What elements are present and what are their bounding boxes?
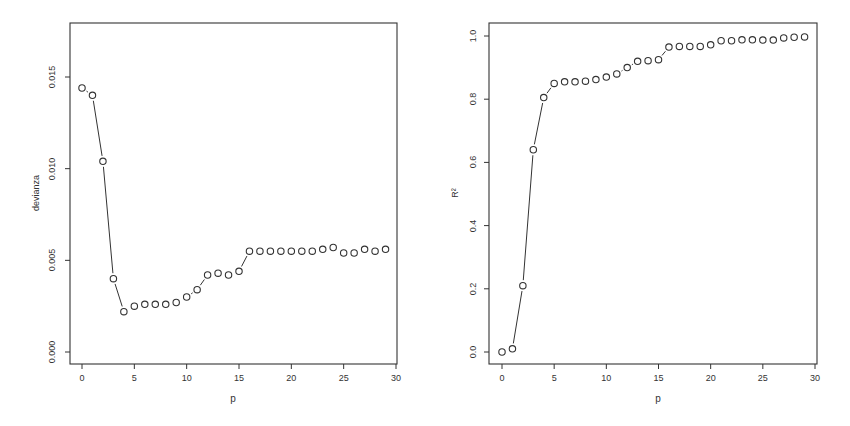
data-point xyxy=(131,303,137,309)
data-point xyxy=(246,248,252,254)
data-point xyxy=(320,246,326,252)
data-point xyxy=(194,286,200,292)
data-point xyxy=(499,349,505,355)
data-point xyxy=(770,37,776,43)
data-point xyxy=(278,248,284,254)
data-point xyxy=(530,147,536,153)
data-point xyxy=(173,299,179,305)
x-tick-label: 30 xyxy=(391,373,401,383)
data-point xyxy=(624,64,630,70)
data-point xyxy=(582,78,588,84)
data-point xyxy=(288,248,294,254)
data-point xyxy=(100,158,106,164)
data-point xyxy=(509,346,515,352)
data-point xyxy=(183,294,189,300)
data-point xyxy=(634,58,640,64)
x-tick-label: 20 xyxy=(706,373,716,383)
x-tick-label: 0 xyxy=(79,373,84,383)
data-point xyxy=(372,248,378,254)
data-point xyxy=(707,42,713,48)
data-point xyxy=(299,248,305,254)
series-segment xyxy=(621,70,622,71)
y-tick-label: 1.0 xyxy=(468,30,478,43)
deviance-chart-panel: devianza p 0510152025300.0000.0050.0100.… xyxy=(0,0,425,426)
data-point xyxy=(781,35,787,41)
y-tick-label: 0.6 xyxy=(468,156,478,169)
x-axis-label-p: p xyxy=(230,393,236,404)
deviance-plot xyxy=(0,0,425,426)
data-point xyxy=(551,80,557,86)
data-point xyxy=(236,268,242,274)
data-point xyxy=(340,250,346,256)
y-tick-label: 0.000 xyxy=(47,341,57,364)
x-tick-label: 25 xyxy=(758,373,768,383)
x-tick-label: 10 xyxy=(601,373,611,383)
y-tick-label: 0.8 xyxy=(468,93,478,106)
data-point xyxy=(163,301,169,307)
data-point xyxy=(361,246,367,252)
data-point xyxy=(645,57,651,63)
x-tick-label: 30 xyxy=(810,373,820,383)
data-point xyxy=(520,282,526,288)
x-tick-label: 25 xyxy=(339,373,349,383)
data-point xyxy=(351,250,357,256)
data-point xyxy=(603,74,609,80)
data-point xyxy=(142,301,148,307)
y-tick-label: 0.0 xyxy=(468,346,478,359)
data-point xyxy=(215,270,221,276)
data-point xyxy=(593,76,599,82)
series-segment xyxy=(103,167,112,273)
r-squared-plot xyxy=(425,0,850,426)
data-point xyxy=(697,43,703,49)
y-axis-label-devianza: devianza xyxy=(31,175,41,211)
y-tick-label: 0.2 xyxy=(468,283,478,296)
plot-frame xyxy=(489,23,817,364)
data-point xyxy=(561,79,567,85)
data-point xyxy=(152,301,158,307)
x-tick-label: 10 xyxy=(182,373,192,383)
y-tick-label: 0.015 xyxy=(47,66,57,89)
x-tick-label: 15 xyxy=(234,373,244,383)
data-point xyxy=(121,308,127,314)
data-point xyxy=(382,246,388,252)
series-segment xyxy=(513,291,522,343)
x-tick-label: 15 xyxy=(653,373,663,383)
data-point xyxy=(655,57,661,63)
data-point xyxy=(791,34,797,40)
data-point xyxy=(89,92,95,98)
data-point xyxy=(728,38,734,44)
data-point xyxy=(749,37,755,43)
data-point xyxy=(541,94,547,100)
series-segment xyxy=(662,51,665,55)
data-point xyxy=(330,244,336,250)
series-segment xyxy=(547,88,551,93)
data-point xyxy=(739,37,745,43)
series-segment xyxy=(523,155,533,280)
x-tick-label: 20 xyxy=(286,373,296,383)
data-point xyxy=(572,79,578,85)
y-tick-label: 0.4 xyxy=(468,219,478,232)
series-segment xyxy=(200,279,204,285)
y-tick-label: 0.010 xyxy=(47,157,57,180)
data-point xyxy=(79,85,85,91)
x-axis-label-p: p xyxy=(655,393,661,404)
data-point xyxy=(676,43,682,49)
data-point xyxy=(718,38,724,44)
series-segment xyxy=(93,101,102,156)
series-segment xyxy=(87,91,88,92)
data-point xyxy=(204,272,210,278)
x-tick-label: 5 xyxy=(132,373,137,383)
r-squared-chart-panel: R² p 0510152025300.00.20.40.60.81.0 xyxy=(425,0,850,426)
data-point xyxy=(760,37,766,43)
data-point xyxy=(267,248,273,254)
y-tick-label: 0.005 xyxy=(47,249,57,272)
plot-frame xyxy=(70,23,397,364)
x-tick-label: 0 xyxy=(499,373,504,383)
series-segment xyxy=(191,293,192,294)
data-point xyxy=(801,34,807,40)
data-point xyxy=(225,272,231,278)
series-segment xyxy=(534,103,542,144)
series-segment xyxy=(242,256,247,266)
x-tick-label: 5 xyxy=(552,373,557,383)
series-segment xyxy=(115,284,122,307)
